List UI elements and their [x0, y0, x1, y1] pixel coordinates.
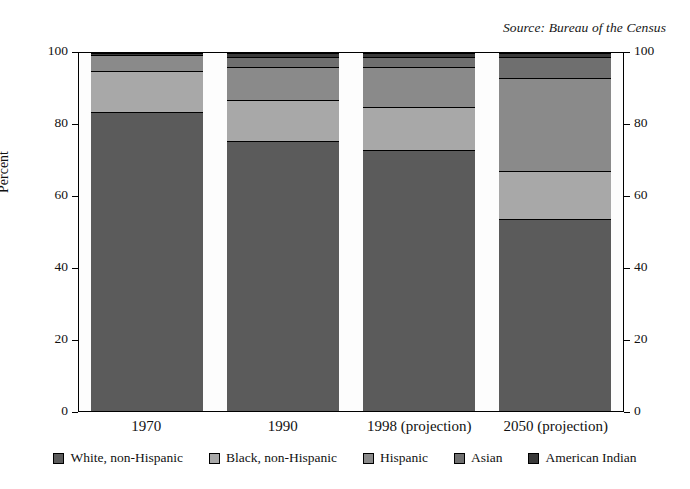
- bar-segment: [363, 67, 475, 106]
- legend-item: White, non-Hispanic: [53, 450, 182, 466]
- legend-label: American Indian: [545, 450, 636, 466]
- bar-segment: [91, 112, 203, 411]
- legend-label: Asian: [471, 450, 503, 466]
- legend-label: Hispanic: [380, 450, 428, 466]
- legend-swatch-icon: [209, 453, 220, 464]
- bar-segment: [499, 78, 611, 171]
- y-axis-label-left: 40: [55, 260, 69, 274]
- bar-segment: [227, 141, 339, 411]
- y-axis-tick-right: [624, 268, 630, 269]
- y-axis-label-left: 20: [55, 332, 69, 346]
- y-axis-label-left: 60: [55, 188, 69, 202]
- y-axis-label-right: 0: [634, 404, 641, 418]
- y-axis-tick-right: [624, 340, 630, 341]
- y-axis-tick-right: [624, 124, 630, 125]
- legend-item: Asian: [454, 450, 503, 466]
- legend-swatch-icon: [363, 453, 374, 464]
- source-note: Source: Bureau of the Census: [503, 20, 666, 36]
- bar-1998-projection-: [363, 53, 475, 411]
- bar-segment: [499, 57, 611, 78]
- bar-1970: [91, 53, 203, 411]
- bar-1990: [227, 53, 339, 411]
- bar-segment: [227, 67, 339, 99]
- legend-swatch-icon: [53, 453, 64, 464]
- y-axis-tick-left: [72, 196, 78, 197]
- legend-item: Black, non-Hispanic: [209, 450, 337, 466]
- bar-segment: [363, 57, 475, 68]
- bar-segment: [91, 55, 203, 71]
- y-axis-label-right: 80: [634, 116, 648, 130]
- stacked-bar-chart-figure: Source: Bureau of the Census Percent 002…: [0, 0, 690, 489]
- y-axis-tick-right: [624, 196, 630, 197]
- y-axis-tick-right: [624, 52, 630, 53]
- bar-segment: [363, 107, 475, 150]
- legend-swatch-icon: [528, 453, 539, 464]
- y-axis-label-right: 100: [634, 44, 654, 58]
- legend-item: American Indian: [528, 450, 636, 466]
- bar-segment: [91, 71, 203, 112]
- legend-swatch-icon: [454, 453, 465, 464]
- bars-container: [79, 53, 623, 411]
- legend-label: Black, non-Hispanic: [226, 450, 337, 466]
- y-axis-label-left: 100: [48, 44, 68, 58]
- y-axis-label-right: 40: [634, 260, 648, 274]
- bar-segment: [499, 171, 611, 219]
- y-axis-title: Percent: [0, 112, 12, 232]
- y-axis-label-left: 0: [61, 404, 68, 418]
- y-axis-tick-left: [72, 268, 78, 269]
- chart-legend: White, non-HispanicBlack, non-HispanicHi…: [0, 450, 690, 466]
- bar-segment: [363, 150, 475, 411]
- y-axis-tick-left: [72, 412, 78, 413]
- bar-segment: [499, 219, 611, 411]
- y-axis-tick-left: [72, 340, 78, 341]
- plot-area: [78, 52, 624, 412]
- y-axis-label-right: 60: [634, 188, 648, 202]
- bar-2050-projection-: [499, 53, 611, 411]
- y-axis-label-left: 80: [55, 116, 69, 130]
- legend-item: Hispanic: [363, 450, 428, 466]
- bar-segment: [227, 100, 339, 141]
- y-axis-tick-left: [72, 52, 78, 53]
- y-axis-tick-left: [72, 124, 78, 125]
- y-axis-tick-right: [624, 412, 630, 413]
- bar-segment: [227, 57, 339, 68]
- y-axis-label-right: 20: [634, 332, 648, 346]
- legend-label: White, non-Hispanic: [70, 450, 182, 466]
- x-axis-label: 2050 (projection): [466, 418, 646, 435]
